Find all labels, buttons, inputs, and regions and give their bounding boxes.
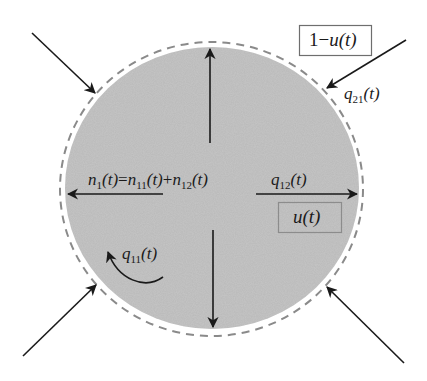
equals-sign: = (118, 170, 128, 189)
n11-var: n (128, 170, 137, 189)
q11-arg: (t) (141, 244, 157, 263)
population-equation: n1(t)=n11(t)+n12(t) (88, 171, 208, 191)
n11-sub: 11 (136, 179, 147, 191)
q21-sub: 21 (353, 93, 364, 105)
plus-sign: + (163, 170, 173, 189)
q21-var: q (344, 84, 353, 103)
inflow-arrow-lower-left (23, 285, 96, 356)
inside-fraction-var: u (293, 206, 303, 227)
n1-var: n (88, 170, 97, 189)
n1-arg: (t) (102, 170, 118, 189)
inflow-arrow-lower-right (327, 287, 404, 363)
outside-fraction-prefix: 1− (309, 29, 329, 50)
outside-fraction-label: 1−u(t) (309, 30, 357, 49)
n12-arg: (t) (192, 170, 208, 189)
inside-fraction-arg: (t) (303, 206, 321, 227)
q12-sub: 12 (280, 179, 291, 191)
q12-label: q12(t) (271, 171, 307, 191)
outside-fraction-var: u (329, 29, 339, 50)
q12-arg: (t) (291, 170, 307, 189)
q21-label: q21(t) (344, 85, 380, 105)
outside-fraction-arg: (t) (339, 29, 357, 50)
n12-sub: 12 (181, 179, 192, 191)
q11-sub: 11 (131, 253, 142, 265)
n12-var: n (172, 170, 181, 189)
population-cell-diagram (0, 0, 427, 381)
q11-var: q (122, 244, 131, 263)
inside-fraction-label: u(t) (293, 207, 320, 226)
q11-label: q11(t) (122, 245, 157, 265)
q12-var: q (271, 170, 280, 189)
n11-arg: (t) (147, 170, 163, 189)
q21-arg: (t) (364, 84, 380, 103)
inflow-arrow-upper-left (32, 33, 95, 93)
